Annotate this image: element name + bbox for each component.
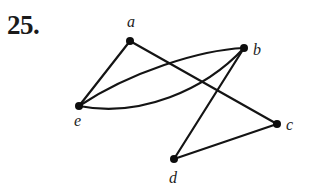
vertex-c (273, 120, 281, 128)
vertex-label-d: d (169, 169, 178, 186)
graph-diagram: a b c d e (0, 0, 309, 188)
vertex-label-e: e (74, 112, 81, 129)
vertex-b (240, 44, 248, 52)
vertex-a (126, 37, 134, 45)
vertex-d (170, 155, 178, 163)
edge-d-c (174, 124, 277, 159)
edge-b-d (174, 48, 244, 159)
edge-a-e (79, 41, 130, 106)
edge-e-b-lower (79, 48, 244, 109)
edge-e-b-upper (79, 48, 244, 106)
vertex-label-c: c (286, 116, 293, 133)
vertex-label-b: b (253, 41, 261, 58)
vertex-label-a: a (127, 13, 135, 30)
vertex-e (75, 102, 83, 110)
